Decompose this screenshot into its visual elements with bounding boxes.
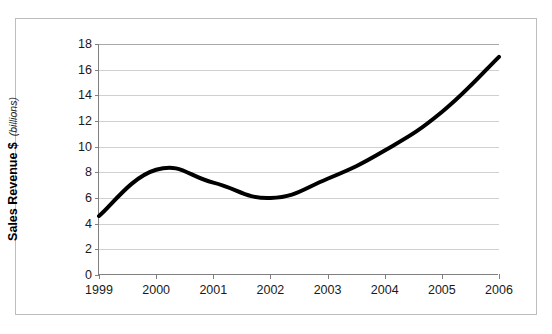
x-tick-label-1999: 1999 (85, 283, 113, 297)
x-tick-mark-2006 (499, 274, 500, 279)
y-tick-label-18: 18 (78, 37, 92, 51)
x-tick-label-2000: 2000 (142, 283, 170, 297)
y-axis-title: Sales Revenue $ (billions) (6, 79, 46, 259)
chart-figure: Sales Revenue $ (billions) 0246810121416… (15, 18, 537, 315)
y-axis-title-main: Sales Revenue $ (6, 142, 20, 241)
y-tick-label-4: 4 (85, 217, 92, 231)
y-tick-label-0: 0 (85, 268, 92, 282)
series-path (99, 57, 499, 216)
y-tick-label-6: 6 (85, 191, 92, 205)
x-tick-label-2002: 2002 (257, 283, 285, 297)
y-tick-label-12: 12 (78, 114, 92, 128)
plot-area: 024681012141618 199920002001200220032004… (98, 44, 498, 275)
series-line-sales-revenue (99, 44, 499, 275)
x-tick-label-2006: 2006 (485, 283, 513, 297)
y-tick-label-14: 14 (78, 88, 92, 102)
y-tick-label-16: 16 (78, 63, 92, 77)
x-tick-label-2004: 2004 (371, 283, 399, 297)
y-tick-label-10: 10 (78, 140, 92, 154)
y-tick-label-8: 8 (85, 165, 92, 179)
x-tick-label-2005: 2005 (428, 283, 456, 297)
x-tick-label-2001: 2001 (199, 283, 227, 297)
x-tick-label-2003: 2003 (314, 283, 342, 297)
y-axis-title-units: (billions) (7, 97, 19, 136)
y-tick-label-2: 2 (85, 242, 92, 256)
